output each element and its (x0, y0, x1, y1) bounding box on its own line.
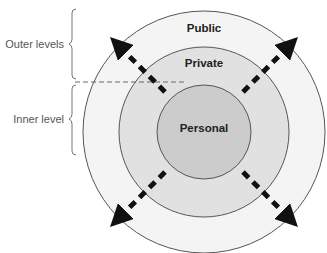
private-label: Private (185, 57, 223, 69)
outer-brace-icon (69, 9, 76, 79)
levels-diagram: Public Private Personal Outer levels Inn… (0, 0, 327, 253)
inner-brace-icon (69, 85, 76, 155)
personal-label: Personal (180, 122, 229, 134)
outer-levels-label: Outer levels (5, 38, 64, 50)
public-label: Public (187, 22, 222, 34)
inner-level-label: Inner level (13, 113, 64, 125)
